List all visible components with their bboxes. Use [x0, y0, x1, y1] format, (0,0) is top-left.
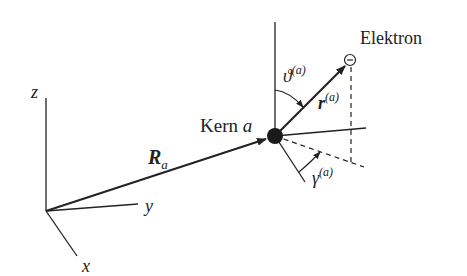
nucleus-label: Kern a: [200, 115, 252, 136]
y-axis-label: y: [143, 196, 153, 216]
local-x-axis: [275, 136, 305, 182]
nucleus-position-label: Ra: [147, 146, 168, 172]
polar-angle-arc: [275, 90, 303, 107]
x-axis-label: x: [81, 256, 90, 276]
nucleus-dot: [267, 128, 283, 144]
azimuthal-angle-label: γ(a): [312, 165, 333, 188]
diagram-canvas: z y x Ra Kern a Elektron ϑ(a) r(a) γ(a): [0, 0, 467, 276]
electron-label: Elektron: [360, 28, 422, 48]
z-axis-label: z: [30, 82, 38, 102]
global-axes: [46, 98, 138, 256]
electron-position-label: r(a): [318, 90, 339, 113]
local-y-axis: [275, 128, 366, 136]
polar-angle-label: ϑ(a): [283, 63, 306, 86]
x-axis: [46, 211, 77, 256]
